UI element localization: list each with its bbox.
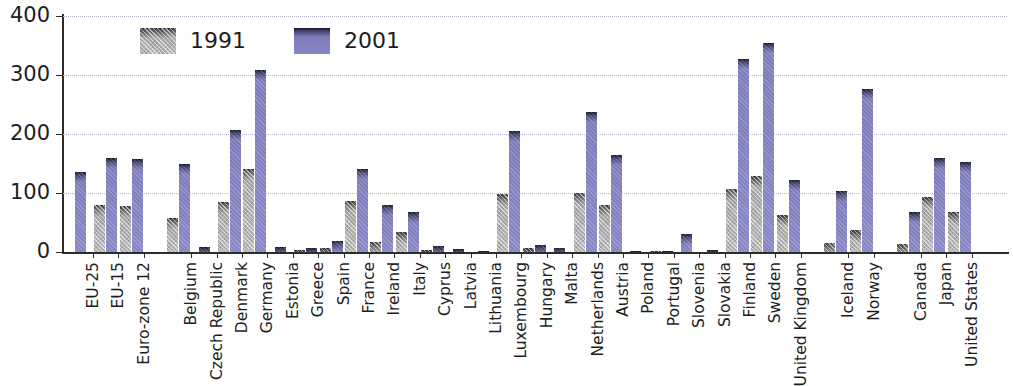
y-tick-label: 400 bbox=[0, 5, 50, 26]
x-tick-mark bbox=[775, 252, 776, 258]
x-tick-mark bbox=[750, 252, 751, 258]
bar-2001 bbox=[306, 248, 317, 252]
bar-2001 bbox=[453, 249, 464, 252]
y-tick-mark bbox=[56, 75, 63, 76]
bar-group bbox=[850, 16, 874, 252]
bar-1991 bbox=[948, 212, 959, 252]
x-tick-mark bbox=[547, 252, 548, 258]
x-tick-mark bbox=[725, 252, 726, 258]
bar-group bbox=[523, 16, 547, 252]
bar-group bbox=[650, 16, 674, 252]
bar-2001 bbox=[763, 43, 774, 252]
bar-1991 bbox=[650, 251, 661, 253]
legend-item-1991: 1991 bbox=[140, 28, 246, 54]
bar-2001 bbox=[554, 248, 565, 252]
bar-group bbox=[726, 16, 750, 252]
x-tick-mark bbox=[496, 252, 497, 258]
x-tick-mark bbox=[801, 252, 802, 258]
chart-legend: 1991 2001 bbox=[140, 28, 448, 54]
bar-group bbox=[472, 16, 496, 252]
bar-2001 bbox=[255, 70, 266, 252]
bar-1991 bbox=[345, 201, 356, 252]
y-tick-mark bbox=[56, 193, 63, 194]
x-axis-label: Netherlands bbox=[591, 262, 607, 356]
x-tick-mark bbox=[598, 252, 599, 258]
x-axis-line bbox=[62, 252, 1009, 254]
bar-2001 bbox=[357, 169, 368, 252]
x-tick-mark bbox=[623, 252, 624, 258]
legend-label-1991: 1991 bbox=[190, 30, 246, 52]
bar-group bbox=[948, 16, 972, 252]
x-tick-mark bbox=[267, 252, 268, 258]
legend-item-2001: 2001 bbox=[294, 28, 400, 54]
bar-2001 bbox=[535, 245, 546, 252]
y-tick-label: 0 bbox=[0, 241, 50, 262]
bar-group bbox=[922, 16, 946, 252]
x-axis-label: Portugal bbox=[667, 262, 683, 326]
bar-1991 bbox=[167, 218, 178, 252]
y-tick-mark bbox=[56, 134, 63, 135]
bar-1991 bbox=[523, 248, 534, 252]
x-axis-label: EU-15 bbox=[111, 262, 127, 308]
x-axis-label: Belgium bbox=[184, 262, 200, 326]
bar-2001 bbox=[275, 247, 286, 252]
bar-1991 bbox=[751, 176, 762, 252]
x-axis-label: Malta bbox=[565, 262, 581, 305]
bar-2001 bbox=[681, 234, 692, 252]
bar-2001 bbox=[433, 246, 444, 252]
bar-group bbox=[751, 16, 775, 252]
y-tick-mark bbox=[56, 16, 63, 17]
x-tick-mark bbox=[93, 252, 94, 258]
bar-1991 bbox=[497, 194, 508, 252]
x-axis-label: Iceland bbox=[841, 262, 857, 318]
bar-1991 bbox=[94, 205, 105, 252]
x-axis-label: Czech Republic bbox=[210, 262, 226, 380]
x-axis-label: Canada bbox=[914, 262, 930, 321]
bar-2001 bbox=[382, 205, 393, 252]
bar-group bbox=[599, 16, 623, 252]
x-tick-mark bbox=[674, 252, 675, 258]
x-axis-label: Latvia bbox=[464, 262, 480, 309]
bar-2001 bbox=[611, 155, 622, 252]
x-tick-mark bbox=[699, 252, 700, 258]
x-axis-label: Cyprus bbox=[438, 262, 454, 316]
bar-1991 bbox=[922, 197, 933, 252]
x-axis-label: Germany bbox=[260, 262, 276, 333]
bar-group bbox=[497, 16, 521, 252]
x-axis-label: Finland bbox=[743, 262, 759, 317]
bar-2001 bbox=[478, 251, 489, 253]
x-axis-label: EU-25 bbox=[86, 262, 102, 308]
bar-group bbox=[69, 16, 93, 252]
bar-group bbox=[824, 16, 848, 252]
x-axis-label: Slovakia bbox=[718, 262, 734, 327]
x-axis-label: United Kingdom bbox=[794, 262, 810, 386]
x-tick-mark bbox=[217, 252, 218, 258]
bar-group bbox=[777, 16, 801, 252]
x-tick-mark bbox=[445, 252, 446, 258]
x-axis-label: Austria bbox=[616, 262, 632, 317]
legend-swatch-2001 bbox=[294, 28, 330, 54]
bar-1991 bbox=[243, 169, 254, 252]
x-tick-mark bbox=[242, 252, 243, 258]
x-axis-label: Estonia bbox=[286, 262, 302, 319]
x-tick-mark bbox=[318, 252, 319, 258]
bar-1991 bbox=[824, 243, 835, 252]
bar-1991 bbox=[897, 244, 908, 252]
x-tick-mark bbox=[344, 252, 345, 258]
bar-2001 bbox=[509, 131, 520, 252]
x-tick-mark bbox=[293, 252, 294, 258]
bar-group bbox=[897, 16, 921, 252]
bar-1991 bbox=[574, 193, 585, 252]
bar-group bbox=[94, 16, 118, 252]
x-tick-mark bbox=[921, 252, 922, 258]
bar-1991 bbox=[370, 242, 381, 252]
bar-group bbox=[675, 16, 699, 252]
bar-2001 bbox=[408, 212, 419, 252]
bar-group bbox=[624, 16, 648, 252]
bar-2001 bbox=[862, 89, 873, 252]
x-axis-label: Luxembourg bbox=[514, 262, 530, 359]
x-tick-mark bbox=[946, 252, 947, 258]
bar-group bbox=[548, 16, 572, 252]
x-tick-mark bbox=[972, 252, 973, 258]
